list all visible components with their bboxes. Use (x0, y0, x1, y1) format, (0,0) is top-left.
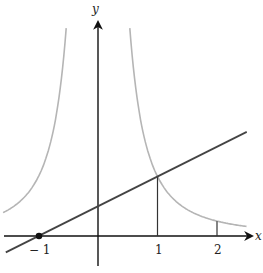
point-neg1 (36, 233, 43, 240)
function-graph: y x − 1 1 2 (0, 0, 263, 273)
curve-left-branch (3, 28, 66, 213)
curve-right-branch (130, 28, 247, 226)
tick-label-2: 2 (214, 243, 222, 257)
tick-label-neg1: − 1 (29, 243, 51, 257)
x-axis-label: x (255, 229, 262, 243)
tick-label-1: 1 (155, 243, 163, 257)
line-y-equals-half-x-plus-half (6, 132, 247, 252)
y-axis-label: y (91, 2, 99, 16)
